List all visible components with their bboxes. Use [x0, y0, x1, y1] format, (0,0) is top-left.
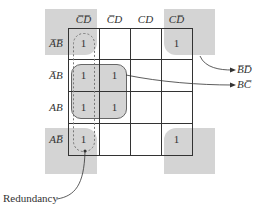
cell-3-0: 1 — [68, 133, 99, 145]
group-bc-label: BC̅ — [237, 78, 251, 90]
cell-0-3: 1 — [161, 37, 192, 49]
col-header-1: C̅D — [99, 13, 130, 25]
cell-1-0: 1 — [68, 69, 99, 81]
row-header-3: AB̅ — [44, 133, 68, 145]
col-header-3: CD̅ — [161, 13, 192, 25]
cell-2-1: 1 — [99, 101, 130, 113]
cell-3-3: 1 — [161, 133, 192, 145]
col-header-2: CD — [130, 13, 161, 25]
cell-2-0: 1 — [68, 101, 99, 113]
row-header-0: A̅B̅ — [44, 37, 68, 49]
redundancy-label: Redundancy — [3, 192, 58, 204]
cell-1-1: 1 — [99, 69, 130, 81]
cell-0-0: 1 — [68, 37, 99, 49]
kmap-grid-lines — [0, 0, 261, 214]
row-header-2: AB — [44, 101, 68, 113]
col-header-0: C̅D̅ — [68, 13, 99, 25]
row-header-1: A̅B — [44, 69, 68, 81]
group-bd-label: B̅D̅ — [237, 63, 252, 75]
